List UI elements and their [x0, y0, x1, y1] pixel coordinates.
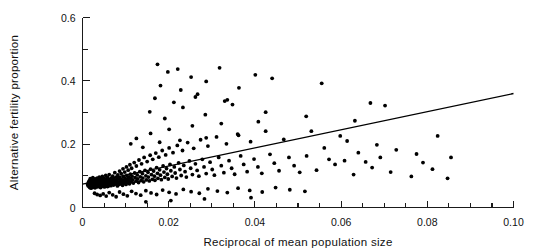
data-point	[446, 176, 450, 180]
data-point	[147, 175, 151, 179]
data-point	[148, 153, 152, 157]
data-point	[145, 160, 149, 164]
data-point	[237, 86, 241, 90]
data-point	[270, 76, 274, 80]
data-point	[149, 191, 153, 195]
scatter-plot-figure: 00.020.040.060.080.1000.20.40.6Reciproca…	[0, 0, 536, 252]
data-point	[159, 178, 163, 182]
data-point	[215, 135, 219, 139]
data-point	[172, 100, 176, 104]
data-point	[167, 127, 171, 131]
data-point	[233, 172, 237, 176]
data-point	[182, 163, 186, 167]
data-point	[186, 141, 190, 145]
x-axis-title: Reciprocal of mean population size	[203, 236, 392, 248]
data-point	[203, 113, 207, 117]
x-tick-label: 0.02	[158, 216, 179, 228]
data-point	[173, 171, 177, 175]
data-point	[157, 155, 161, 159]
data-point	[191, 124, 195, 128]
data-point	[175, 144, 179, 148]
data-point	[305, 154, 309, 158]
data-point	[230, 166, 234, 170]
data-point	[169, 199, 173, 203]
data-point	[253, 73, 257, 77]
data-point	[134, 192, 138, 196]
data-point	[163, 117, 167, 121]
data-point	[239, 154, 243, 158]
data-point	[431, 167, 435, 171]
data-point	[272, 161, 276, 165]
data-point	[144, 189, 148, 193]
data-point	[225, 142, 229, 146]
data-point	[174, 192, 178, 196]
data-point	[309, 129, 313, 133]
data-point	[304, 114, 308, 118]
data-point	[195, 169, 199, 173]
data-point	[162, 170, 166, 174]
data-point	[166, 172, 170, 176]
data-point	[151, 157, 155, 161]
data-point	[159, 173, 163, 177]
regression-line	[83, 94, 514, 185]
data-point	[415, 152, 419, 156]
data-point	[303, 189, 307, 193]
data-point	[282, 138, 286, 142]
data-point	[333, 163, 337, 167]
data-point	[298, 170, 302, 174]
data-point	[125, 194, 129, 198]
data-point	[256, 120, 260, 124]
data-point	[181, 188, 185, 192]
data-point	[181, 149, 185, 153]
y-tick-label: 0.6	[61, 12, 76, 24]
data-point	[252, 157, 256, 161]
data-point	[242, 163, 246, 167]
data-point	[320, 81, 324, 85]
data-point	[315, 168, 319, 172]
data-point	[179, 174, 183, 178]
data-point	[161, 188, 165, 192]
data-point	[231, 103, 235, 107]
data-point	[227, 159, 231, 163]
data-point	[101, 192, 105, 196]
data-point	[248, 189, 252, 193]
data-point	[338, 134, 342, 138]
data-point	[197, 174, 201, 178]
data-point	[167, 146, 171, 150]
data-point	[166, 70, 170, 74]
data-point	[181, 106, 185, 110]
data-point	[245, 170, 249, 174]
data-point	[184, 175, 188, 179]
data-point	[132, 161, 136, 165]
data-point	[343, 159, 347, 163]
data-point	[394, 148, 398, 152]
data-point	[260, 190, 264, 194]
y-tick-label: 0	[70, 202, 76, 214]
data-point	[175, 176, 179, 180]
data-point	[322, 146, 326, 150]
data-point	[199, 138, 203, 142]
data-point	[212, 173, 216, 177]
data-point	[370, 166, 374, 170]
data-point	[409, 175, 413, 179]
data-point	[158, 140, 162, 144]
data-point	[225, 191, 229, 195]
y-tick-label: 0.4	[61, 75, 76, 87]
data-point	[107, 191, 111, 195]
data-point	[268, 152, 272, 156]
data-point	[236, 186, 240, 190]
data-point	[126, 168, 130, 172]
data-point	[163, 176, 167, 180]
data-point	[122, 192, 126, 196]
data-point	[178, 168, 182, 172]
data-point	[159, 84, 163, 88]
data-point	[128, 163, 132, 167]
data-point	[153, 96, 157, 100]
data-point	[204, 136, 208, 140]
data-point	[249, 140, 253, 144]
data-point	[436, 134, 440, 138]
x-tick-label: 0.04	[245, 216, 266, 228]
data-point	[288, 188, 292, 192]
data-point	[345, 139, 349, 143]
data-point	[155, 193, 159, 197]
